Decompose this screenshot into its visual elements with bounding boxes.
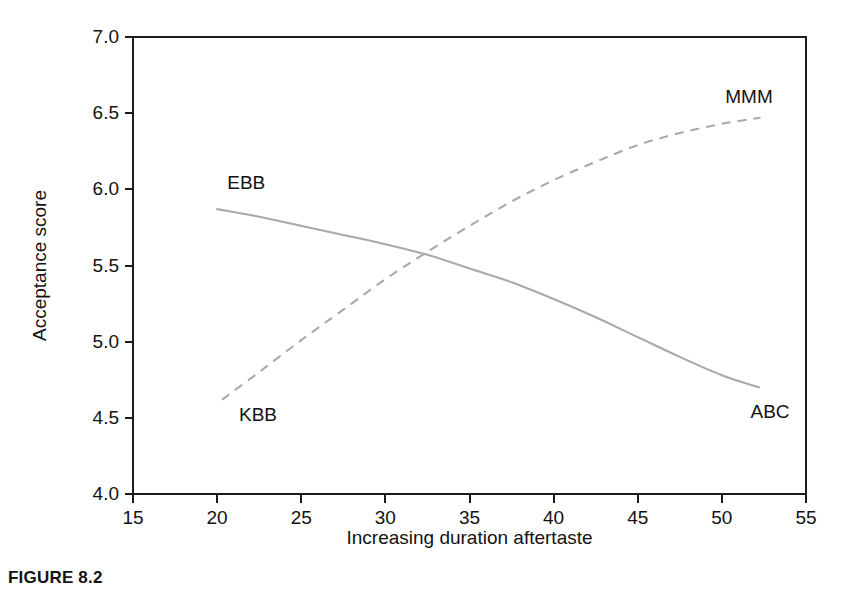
- x-tick-label: 50: [711, 507, 732, 528]
- x-tick-label: 55: [795, 507, 816, 528]
- y-tick-label: 6.0: [93, 178, 119, 199]
- plot-axes: [133, 37, 806, 494]
- x-tick-label: 45: [627, 507, 648, 528]
- y-tick-label: 4.5: [93, 407, 119, 428]
- y-tick-label: 6.5: [93, 102, 119, 123]
- x-tick-label: 35: [459, 507, 480, 528]
- series-line-ebb-abc: [217, 209, 759, 387]
- y-tick-label: 5.0: [93, 331, 119, 352]
- x-tick-label: 40: [543, 507, 564, 528]
- figure-container: 4.04.55.05.56.06.57.0152025303540455055I…: [0, 0, 855, 604]
- x-tick-label: 20: [207, 507, 228, 528]
- x-tick-label: 25: [291, 507, 312, 528]
- plot-frame: [133, 37, 806, 494]
- x-tick-label: 15: [122, 507, 143, 528]
- y-tick-label: 4.0: [93, 483, 119, 504]
- x-axis-title: Increasing duration aftertaste: [346, 527, 592, 548]
- y-axis-title: Acceptance score: [29, 190, 50, 341]
- y-tick-label: 7.0: [93, 26, 119, 47]
- figure-caption: FIGURE 8.2: [8, 568, 103, 588]
- line-chart: 4.04.55.05.56.06.57.0152025303540455055I…: [0, 0, 855, 560]
- y-tick-label: 5.5: [93, 255, 119, 276]
- x-tick-label: 30: [375, 507, 396, 528]
- series-annotation-mmm: MMM: [725, 86, 772, 107]
- series-annotation-kbb: KBB: [239, 404, 277, 425]
- series-annotation-abc: ABC: [750, 401, 789, 422]
- series-annotation-ebb: EBB: [227, 172, 265, 193]
